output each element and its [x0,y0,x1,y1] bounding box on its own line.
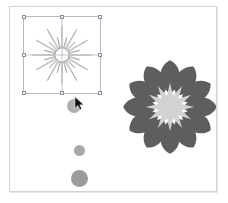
circle-large-bottom[interactable] [71,170,88,187]
canvas-surface[interactable] [10,7,216,191]
drawing-canvas[interactable] [9,6,217,192]
starburst-icon [23,16,101,94]
flower-icon [116,53,216,161]
circle-small-middle[interactable] [74,145,85,156]
flower-shape[interactable] [116,53,216,161]
starburst-shape[interactable] [23,16,101,94]
app-window [0,0,228,203]
starburst-center-dot [61,54,62,55]
circle-large-top[interactable] [67,99,81,113]
